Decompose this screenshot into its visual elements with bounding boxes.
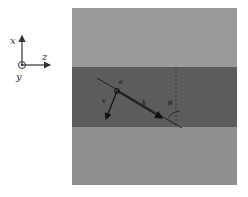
angle-label: θ (168, 100, 173, 108)
z-axis-label: z (41, 51, 48, 62)
wavevector-label: k (142, 99, 146, 107)
y-axis-label: y (15, 71, 22, 82)
velocity-label: v (102, 97, 106, 105)
particle-trajectory-diagram: e v k θ (72, 8, 237, 185)
velocity-arrow (106, 91, 117, 119)
particle-label: e (119, 78, 123, 86)
angle-arc (168, 111, 180, 118)
x-axis-label: x (10, 35, 16, 46)
coordinate-axes: x z y (0, 0, 70, 100)
wavevector-arrow (117, 91, 162, 118)
